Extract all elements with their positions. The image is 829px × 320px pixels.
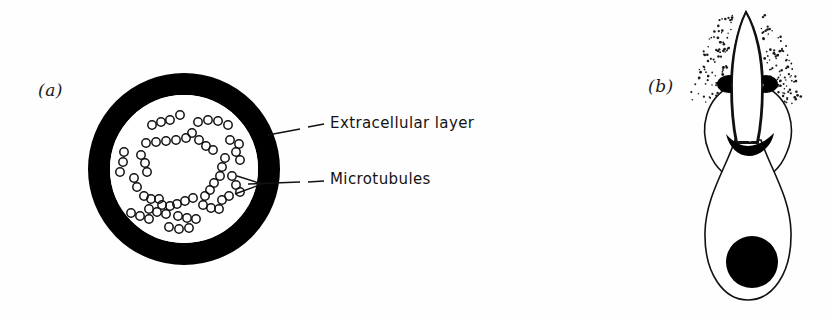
stipple-dot bbox=[794, 75, 796, 77]
stipple-dot bbox=[783, 83, 785, 85]
stipple-dot bbox=[780, 69, 783, 72]
stipple-dot bbox=[722, 50, 725, 53]
stipple-dot bbox=[698, 93, 700, 95]
stipple-dot bbox=[703, 66, 705, 68]
sperm-cell-group bbox=[690, 12, 802, 300]
stipple-dot bbox=[725, 51, 727, 53]
callout-label-extracellular-layer: Extracellular layer bbox=[330, 114, 474, 132]
stipple-dot bbox=[730, 22, 732, 24]
leader-microtubules-seg2 bbox=[308, 181, 324, 182]
stipple-dot bbox=[773, 49, 775, 51]
stipple-dot bbox=[795, 80, 798, 83]
stipple-dot bbox=[699, 71, 702, 74]
stipple-dot bbox=[699, 69, 701, 71]
stipple-dot bbox=[769, 59, 771, 61]
stipple-dot bbox=[722, 69, 724, 71]
stipple-dot bbox=[787, 91, 789, 93]
stipple-dot bbox=[795, 98, 798, 101]
stipple-dot bbox=[707, 46, 709, 48]
stipple-dot bbox=[721, 29, 724, 32]
stipple-dot bbox=[791, 68, 793, 70]
stipple-dot bbox=[721, 32, 723, 34]
figure-artwork bbox=[0, 0, 829, 320]
stipple-dot bbox=[767, 26, 769, 28]
stipple-dot bbox=[705, 71, 707, 73]
stipple-dot bbox=[711, 72, 713, 74]
stipple-dot bbox=[786, 98, 788, 100]
stipple-dot bbox=[698, 78, 700, 80]
stipple-dot bbox=[789, 76, 790, 77]
stipple-dot bbox=[780, 40, 782, 42]
stipple-dot bbox=[784, 76, 786, 78]
stipple-dot bbox=[790, 92, 792, 94]
stipple-dot bbox=[720, 41, 722, 43]
stipple-dot bbox=[775, 58, 777, 60]
stipple-dot bbox=[721, 73, 724, 76]
stipple-dot bbox=[761, 28, 763, 30]
stipple-dot bbox=[709, 97, 711, 99]
stipple-dot bbox=[704, 68, 706, 70]
stipple-dot bbox=[763, 57, 766, 60]
stipple-dot bbox=[766, 51, 768, 53]
stipple-dot bbox=[788, 73, 790, 75]
stipple-dot bbox=[703, 50, 705, 52]
stipple-dot bbox=[789, 89, 792, 92]
stipple-dot bbox=[711, 84, 713, 86]
nucleus bbox=[726, 236, 778, 288]
cross-section-group bbox=[99, 84, 269, 254]
callout-label-microtubules: Microtubules bbox=[330, 170, 431, 188]
stipple-dot bbox=[786, 65, 789, 68]
stipple-dot bbox=[795, 90, 798, 93]
stipple-dot bbox=[718, 19, 720, 21]
stipple-dot bbox=[727, 47, 730, 50]
stipple-dot bbox=[707, 79, 709, 81]
stipple-dot bbox=[717, 25, 720, 28]
stipple-dot bbox=[726, 50, 728, 52]
stipple-dot bbox=[779, 79, 782, 82]
stipple-dot bbox=[766, 62, 768, 64]
stipple-dot bbox=[762, 16, 764, 18]
stipple-dot bbox=[706, 54, 709, 57]
stipple-dot bbox=[710, 37, 712, 39]
panel-label-b: (b) bbox=[648, 76, 674, 96]
figure-canvas: (a) (b) Extracellular layer Microtubules bbox=[0, 0, 829, 320]
stipple-dot bbox=[690, 91, 692, 93]
stipple-dot bbox=[725, 66, 728, 69]
stipple-dot bbox=[726, 37, 728, 39]
stipple-dot bbox=[718, 30, 720, 32]
stipple-dot bbox=[722, 66, 725, 69]
stipple-dot bbox=[710, 58, 712, 60]
stipple-dot bbox=[713, 36, 715, 38]
stipple-dot bbox=[768, 33, 770, 35]
stipple-dot bbox=[784, 93, 786, 95]
stipple-dot bbox=[721, 71, 723, 73]
stipple-dot bbox=[694, 83, 696, 85]
stipple-dot bbox=[705, 101, 706, 102]
stipple-dot bbox=[784, 88, 786, 90]
stipple-dot bbox=[775, 64, 777, 66]
stipple-dot bbox=[712, 58, 714, 60]
stipple-dot bbox=[764, 14, 767, 17]
stipple-dot bbox=[717, 50, 720, 53]
stipple-dot bbox=[780, 74, 782, 76]
leader-extracellular-seg2 bbox=[308, 124, 324, 127]
stipple-dot bbox=[714, 61, 716, 63]
panel-label-a: (a) bbox=[38, 80, 63, 100]
stipple-dot bbox=[724, 18, 726, 20]
stipple-dot bbox=[776, 54, 778, 56]
stipple-dot bbox=[771, 30, 773, 32]
stipple-dot bbox=[705, 83, 707, 85]
stipple-dot bbox=[707, 60, 710, 63]
stipple-dot bbox=[768, 28, 770, 30]
stipple-dot bbox=[715, 75, 717, 77]
stipple-dot bbox=[779, 84, 781, 86]
stipple-dot bbox=[730, 29, 732, 31]
stipple-dot bbox=[785, 79, 787, 81]
stipple-dot bbox=[791, 103, 793, 105]
stipple-dot bbox=[709, 38, 711, 40]
stipple-dot bbox=[713, 30, 716, 33]
stipple-dot bbox=[711, 93, 713, 95]
stipple-dot bbox=[763, 31, 765, 33]
stipple-dot bbox=[787, 54, 789, 56]
stipple-dot bbox=[722, 42, 724, 44]
